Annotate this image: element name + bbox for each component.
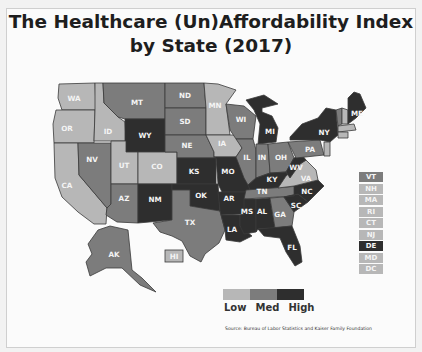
label-az: AZ [119,194,130,203]
label-nv: NV [86,155,98,164]
label-id: ID [104,127,113,136]
label-pa: PA [305,145,316,154]
label-ms: MS [241,207,253,216]
source-note: Source: Bureau of Labor Statistics and K… [225,326,372,331]
state-ct [338,132,348,138]
legend-swatch-high [277,289,304,300]
label-mt: MT [131,98,143,107]
ne-box-md: MD [359,253,383,263]
label-mn: MN [208,101,221,110]
ne-box-de: DE [359,241,383,251]
label-ut: UT [119,161,130,170]
state-me [348,92,366,124]
label-al: AL [257,207,268,216]
label-ok: OK [195,191,207,200]
ne-box-ri: RI [359,207,383,217]
legend-labels: Low Med High [224,302,314,313]
legend-swatch-low [223,289,250,300]
ne-box-nh: NH [359,184,383,194]
label-ny: NY [318,128,330,137]
label-ks: KS [189,167,200,176]
label-wv: WV [289,163,303,172]
label-ga: GA [274,210,286,219]
state-ma [338,124,356,132]
legend-label-high: High [288,302,314,313]
label-la: LA [227,225,238,234]
label-va: VA [301,174,312,183]
label-co: CO [151,162,162,171]
label-wy: WY [138,131,152,140]
label-il: IL [243,153,251,162]
label-nm: NM [148,195,161,204]
label-nc: NC [301,187,312,196]
ne-box-ct: CT [359,218,383,228]
state-nj [324,142,330,156]
legend-label-med: Med [255,302,279,313]
label-ak: AK [108,250,120,259]
label-hi: HI [170,252,179,261]
ne-box-ma: MA [359,195,383,205]
label-ar: AR [223,194,235,203]
label-fl: FL [287,243,297,252]
state-or [53,110,95,143]
ne-box-dc: DC [359,264,383,274]
legend-swatch-med [250,289,277,300]
label-sd: SD [179,117,190,126]
label-in: IN [258,153,267,162]
label-ca: CA [62,181,73,190]
label-mi: MI [265,127,275,136]
label-ne: NE [182,141,193,150]
label-or: OR [61,124,73,133]
legend-label-low: Low [224,302,246,313]
state-nh [342,108,348,124]
label-tx: TX [185,218,196,227]
state-az [106,184,138,223]
state-ny [290,108,338,142]
label-ia: IA [218,139,227,148]
label-me: ME [351,109,363,118]
label-wa: WA [67,94,81,103]
label-mo: MO [221,167,234,176]
label-oh: OH [275,153,287,162]
label-nd: ND [179,91,191,100]
ne-box-vt: VT [359,172,383,182]
legend [223,289,304,300]
state-ak [86,226,156,292]
ne-box-nj: NJ [359,230,383,240]
label-tn: TN [257,187,268,196]
label-wi: WI [236,115,247,124]
label-ky: KY [267,175,279,184]
label-sc: SC [291,201,301,210]
